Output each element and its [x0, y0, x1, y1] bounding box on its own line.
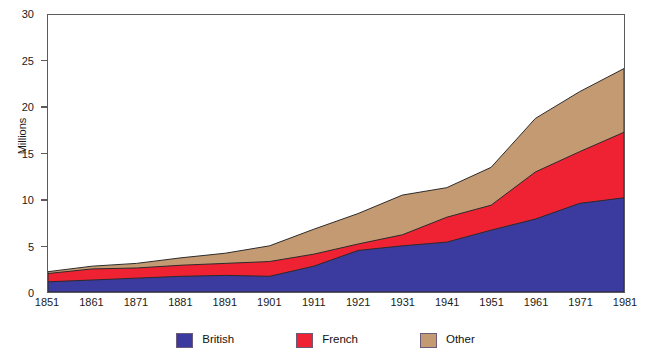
y-tick-label-5: 5 — [28, 241, 34, 252]
legend-label-french: French — [322, 334, 358, 346]
x-tick-label-1921: 1921 — [346, 297, 370, 308]
legend-item-other[interactable]: Other — [420, 333, 475, 348]
y-tick-label-30: 30 — [22, 9, 34, 20]
y-tick-label-15: 15 — [22, 148, 34, 159]
area-layers — [48, 69, 624, 292]
x-axis-tick-labels: 1851186118711881189119011911192119311941… — [0, 297, 651, 315]
legend-item-british[interactable]: British — [176, 333, 234, 348]
x-tick-label-1901: 1901 — [257, 297, 281, 308]
x-tick-label-1871: 1871 — [124, 297, 148, 308]
stacked-area-chart: Millions 051015202530 185118611871188118… — [0, 0, 651, 357]
x-tick-label-1891: 1891 — [213, 297, 237, 308]
x-tick-label-1941: 1941 — [435, 297, 459, 308]
legend-label-british: British — [202, 334, 234, 346]
x-tick-label-1981: 1981 — [613, 297, 637, 308]
x-tick-label-1961: 1961 — [524, 297, 548, 308]
legend-swatch-other — [420, 333, 437, 348]
x-tick-label-1951: 1951 — [479, 297, 503, 308]
x-tick-label-1971: 1971 — [568, 297, 592, 308]
plot-area — [47, 14, 625, 293]
legend-swatch-french — [296, 333, 313, 348]
x-tick-label-1911: 1911 — [302, 297, 326, 308]
legend-swatch-british — [176, 333, 193, 348]
x-tick-label-1881: 1881 — [168, 297, 192, 308]
x-tick-label-1851: 1851 — [35, 297, 59, 308]
legend-item-french[interactable]: French — [296, 333, 358, 348]
chart-legend: BritishFrenchOther — [0, 329, 651, 351]
y-tick-label-10: 10 — [22, 195, 34, 206]
plot-svg — [48, 15, 624, 292]
y-tick-label-25: 25 — [22, 55, 34, 66]
legend-label-other: Other — [446, 334, 475, 346]
x-tick-label-1931: 1931 — [390, 297, 414, 308]
x-tick-label-1861: 1861 — [79, 297, 103, 308]
y-tick-label-20: 20 — [22, 102, 34, 113]
